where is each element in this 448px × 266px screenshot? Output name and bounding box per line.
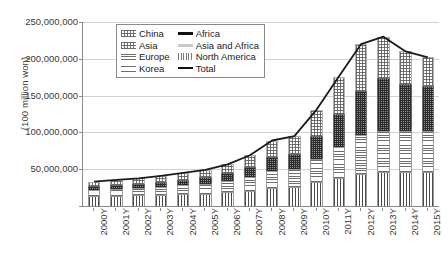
- solid-black-swatch: [178, 32, 193, 35]
- legend-label: North America: [196, 51, 256, 63]
- legend-item-asia[interactable]: Asia: [121, 40, 170, 52]
- x-axis-label-2010Y: 2010Y: [320, 208, 331, 266]
- x-axis-label-2014Y: 2014Y: [409, 208, 420, 266]
- y-axis-tick-label: 250,000,000: [0, 16, 78, 27]
- x-axis-label-2001Y: 2001Y: [120, 208, 131, 266]
- x-axis-tick: [382, 208, 383, 211]
- legend-item-asia-and-africa[interactable]: Asia and Africa: [178, 40, 259, 52]
- x-axis-tick: [138, 208, 139, 211]
- x-axis-tick: [338, 208, 339, 211]
- legend-label: Africa: [196, 28, 220, 40]
- y-axis-tick-label: 100,000,000: [0, 126, 78, 137]
- legend-label: Asia and Africa: [196, 40, 259, 52]
- x-axis-tick: [405, 208, 406, 211]
- fine-vertical-swatch: [178, 53, 193, 60]
- legend-label: China: [139, 28, 164, 40]
- x-axis-label-2009Y: 2009Y: [298, 208, 309, 266]
- x-axis-label-2008Y: 2008Y: [276, 208, 287, 266]
- y-axis-tick-label: 200,000,000: [0, 53, 78, 64]
- light-dots-swatch: [121, 30, 136, 37]
- y-axis-tick-label: 150,000,000: [0, 90, 78, 101]
- x-axis-label-2015Y: 2015Y: [431, 208, 442, 266]
- legend-item-north-america[interactable]: North America: [178, 51, 259, 63]
- stacked-bar-chart: (100 million won) 250,000,000200,000,000…: [0, 0, 448, 266]
- x-axis-tick: [316, 208, 317, 211]
- x-axis-label-2007Y: 2007Y: [253, 208, 264, 266]
- x-axis-tick: [249, 208, 250, 211]
- x-axis-tick-labels: 2000Y2001Y2002Y2003Y2004Y2005Y2006Y2007Y…: [82, 208, 438, 266]
- legend-label: Asia: [139, 40, 157, 52]
- x-axis-label-2013Y: 2013Y: [387, 208, 398, 266]
- x-axis-tick: [360, 208, 361, 211]
- x-axis-label-2002Y: 2002Y: [142, 208, 153, 266]
- legend-item-china[interactable]: China: [121, 28, 170, 40]
- horizontal-hatch-swatch: [121, 53, 136, 60]
- horizontal-hatch2-swatch: [121, 65, 136, 72]
- x-axis-label-2011Y: 2011Y: [342, 208, 353, 266]
- x-axis-label-2000Y: 2000Y: [98, 208, 109, 266]
- x-axis-tick: [182, 208, 183, 211]
- x-axis-tick: [204, 208, 205, 211]
- legend-label: Korea: [139, 63, 164, 75]
- x-axis-label-2004Y: 2004Y: [187, 208, 198, 266]
- x-axis-tick: [293, 208, 294, 211]
- y-axis-tick-label: 50,000,000: [0, 163, 78, 174]
- x-axis-label-2006Y: 2006Y: [231, 208, 242, 266]
- x-axis-tick: [227, 208, 228, 211]
- legend-item-total[interactable]: Total: [178, 63, 259, 75]
- x-axis-label-2003Y: 2003Y: [164, 208, 175, 266]
- chart-legend: ChinaAfricaAsiaAsia and AfricaEuropeNort…: [116, 24, 265, 78]
- legend-item-europe[interactable]: Europe: [121, 51, 170, 63]
- x-axis-tick: [93, 208, 94, 211]
- x-axis-tick: [427, 208, 428, 211]
- line-swatch: [178, 67, 193, 69]
- x-axis-tick: [160, 208, 161, 211]
- legend-item-africa[interactable]: Africa: [178, 28, 259, 40]
- x-axis-tick: [271, 208, 272, 211]
- legend-label: Europe: [139, 51, 170, 63]
- y-axis-tick: [79, 206, 83, 207]
- x-axis-label-2012Y: 2012Y: [365, 208, 376, 266]
- legend-label: Total: [196, 63, 216, 75]
- x-axis-label-2005Y: 2005Y: [209, 208, 220, 266]
- legend-item-korea[interactable]: Korea: [121, 63, 170, 75]
- x-axis-tick: [115, 208, 116, 211]
- light-dots2-swatch: [121, 42, 136, 49]
- light-gray-swatch: [178, 44, 193, 47]
